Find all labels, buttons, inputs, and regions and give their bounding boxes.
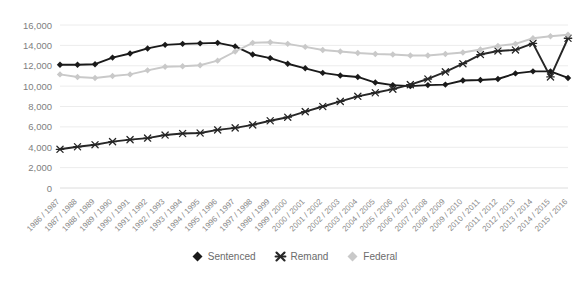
data-point-marker	[126, 137, 133, 143]
data-point-marker	[267, 39, 273, 45]
chart-legend: Sentenced Remand Federal	[0, 250, 588, 263]
data-point-marker	[214, 57, 220, 63]
data-point-marker	[512, 70, 518, 76]
data-point-marker	[74, 144, 81, 150]
legend-label-sentenced: Sentenced	[208, 251, 256, 262]
data-point-marker	[512, 47, 519, 53]
legend-label-remand: Remand	[291, 251, 329, 262]
data-point-marker	[285, 41, 291, 47]
data-point-marker	[424, 76, 431, 82]
data-point-marker	[179, 130, 186, 136]
data-point-marker	[144, 135, 151, 141]
data-point-marker	[231, 125, 238, 131]
y-axis-tick-labels: 16,00014,00012,00010,0008,0006,0004,0002…	[23, 20, 52, 194]
data-point-marker	[355, 74, 361, 80]
data-point-marker	[425, 82, 431, 88]
y-axis-tick-label: 10,000	[23, 81, 52, 92]
y-axis-tick-label: 14,000	[23, 40, 52, 51]
data-point-marker	[214, 127, 221, 133]
line-chart: 16,00014,00012,00010,0008,0006,0004,0002…	[0, 0, 588, 287]
data-point-marker	[495, 76, 501, 82]
y-axis-tick-label: 12,000	[23, 60, 52, 71]
data-point-marker	[477, 77, 483, 83]
data-point-marker	[442, 69, 449, 75]
data-point-marker	[372, 79, 378, 85]
y-axis-tick-label: 0	[47, 183, 52, 194]
data-point-marker	[267, 55, 273, 61]
data-point-marker	[109, 54, 115, 60]
data-point-marker	[354, 93, 361, 99]
data-point-marker	[337, 98, 344, 104]
data-point-marker	[512, 41, 518, 47]
diamond-marker-icon	[346, 250, 359, 263]
data-point-marker	[92, 75, 98, 81]
data-point-marker	[162, 42, 168, 48]
data-point-marker	[109, 73, 115, 79]
data-point-marker	[337, 72, 343, 78]
data-point-marker	[196, 130, 203, 136]
data-point-marker	[284, 114, 291, 120]
data-point-marker	[355, 50, 361, 56]
data-point-marker	[565, 75, 571, 81]
data-point-marker	[319, 103, 326, 109]
data-point-marker	[179, 41, 185, 47]
data-point-marker	[390, 51, 396, 57]
legend-item-sentenced[interactable]: Sentenced	[191, 250, 256, 263]
data-point-marker	[407, 52, 413, 58]
data-point-marker	[442, 51, 448, 57]
data-point-marker	[442, 81, 448, 87]
data-point-marker	[425, 52, 431, 58]
x-marker-icon	[274, 250, 287, 263]
data-point-marker	[337, 48, 343, 54]
data-series-layer	[56, 31, 571, 152]
data-point-marker	[74, 62, 80, 68]
data-point-marker	[144, 67, 150, 73]
data-point-marker	[302, 44, 308, 50]
data-point-marker	[320, 47, 326, 53]
legend-label-federal: Federal	[363, 251, 397, 262]
y-axis-tick-label: 4,000	[28, 142, 52, 153]
data-point-marker	[372, 90, 379, 96]
y-axis-tick-label: 8,000	[28, 101, 52, 112]
legend-item-federal[interactable]: Federal	[346, 250, 397, 263]
data-point-marker	[92, 61, 98, 67]
data-point-marker	[460, 49, 466, 55]
series-line-remand	[60, 38, 568, 149]
data-point-marker	[127, 71, 133, 77]
data-point-marker	[179, 63, 185, 69]
data-point-marker	[320, 70, 326, 76]
legend-item-remand[interactable]: Remand	[274, 250, 329, 263]
data-point-marker	[74, 74, 80, 80]
data-point-marker	[57, 62, 63, 68]
data-point-marker	[267, 118, 274, 124]
y-axis-tick-label: 6,000	[28, 121, 52, 132]
data-point-marker	[372, 51, 378, 57]
gridlines	[60, 25, 568, 188]
x-axis-tick-labels: 1986 / 19871987 / 19881988 / 19891989 / …	[25, 197, 570, 234]
data-point-marker	[144, 45, 150, 51]
data-point-marker	[302, 108, 309, 114]
data-point-marker	[197, 62, 203, 68]
y-axis-tick-label: 16,000	[23, 20, 52, 31]
data-point-marker	[460, 77, 466, 83]
data-point-marker	[249, 51, 255, 57]
data-point-marker	[57, 71, 63, 77]
data-point-marker	[161, 132, 168, 138]
y-axis-tick-label: 2,000	[28, 162, 52, 173]
data-point-marker	[530, 68, 536, 74]
data-point-marker	[127, 50, 133, 56]
data-point-marker	[162, 64, 168, 70]
diamond-marker-icon	[191, 250, 204, 263]
data-point-marker	[109, 139, 116, 145]
chart-canvas: 16,00014,00012,00010,0008,0006,0004,0002…	[0, 0, 588, 287]
data-point-marker	[547, 33, 553, 39]
